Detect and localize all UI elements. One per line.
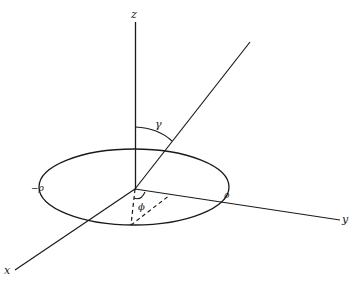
- gamma-label: γ: [155, 118, 162, 131]
- x-axis-label: x: [4, 264, 11, 277]
- coordinate-diagram: z y x γ ϕ ρ −ρ: [0, 0, 356, 284]
- dashed-projection-1: [131, 189, 135, 225]
- gamma-ray: [135, 42, 250, 189]
- y-axis: [135, 189, 340, 220]
- y-axis-label: y: [341, 213, 349, 226]
- rho-positive-label: ρ: [223, 190, 230, 200]
- phi-label: ϕ: [138, 201, 145, 212]
- x-axis: [15, 189, 135, 270]
- phi-arc: [134, 192, 145, 199]
- rho-negative-label: −ρ: [31, 183, 45, 193]
- z-axis-label: z: [130, 8, 137, 21]
- dashed-projection-2: [131, 195, 170, 225]
- rho-circle: [39, 149, 229, 225]
- gamma-arc: [136, 127, 173, 141]
